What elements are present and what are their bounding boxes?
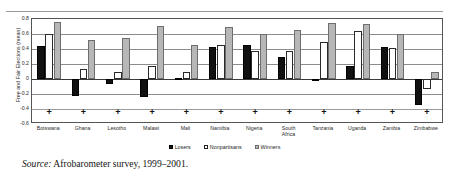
bar-winners xyxy=(397,34,404,79)
bar-nonpartisans xyxy=(286,51,293,80)
bar-losers xyxy=(278,57,285,79)
significance-plus-marker: + xyxy=(218,108,223,117)
bar-nonpartisans xyxy=(183,72,190,79)
bar-losers xyxy=(381,47,388,79)
bar-winners xyxy=(157,26,164,79)
y-tick-label: 0.4 xyxy=(22,45,29,51)
significance-plus-marker: + xyxy=(424,108,429,117)
source-caption: Source: Afrobarometer survey, 1999–2001. xyxy=(22,158,188,169)
bar-nonpartisans xyxy=(389,48,396,79)
bar-winners xyxy=(88,40,95,79)
bar-winners xyxy=(260,34,267,79)
bar-winners xyxy=(54,22,61,79)
x-tick-label: Namibia xyxy=(203,125,237,131)
legend-item-losers: Losers xyxy=(169,144,191,150)
x-tick-label: Botswana xyxy=(31,125,65,131)
legend-label: Losers xyxy=(175,144,191,150)
chart-legend: LosersNonpartisansWinners xyxy=(0,144,449,150)
source-label: Source: xyxy=(22,158,51,169)
y-tick-label: 0.2 xyxy=(22,60,29,66)
significance-marker-row: ++++++++++++ xyxy=(32,103,442,122)
plot-area: ++++++++++++ xyxy=(31,18,443,123)
legend-label: Nonpartisans xyxy=(210,144,242,150)
bar-nonpartisans xyxy=(114,72,121,80)
x-tick-label: South Africa xyxy=(271,125,305,137)
bar-nonpartisans xyxy=(320,42,327,79)
top-divider-rule xyxy=(6,11,443,12)
x-tick-label: Tanzania xyxy=(306,125,340,131)
y-tick-label: 0 xyxy=(26,75,29,81)
bar-winners xyxy=(191,45,198,79)
significance-plus-marker: + xyxy=(253,108,258,117)
y-tick-label: 0.6 xyxy=(22,30,29,36)
significance-plus-marker: + xyxy=(81,108,86,117)
bar-nonpartisans xyxy=(148,66,155,80)
bar-losers xyxy=(140,79,147,97)
significance-plus-marker: + xyxy=(184,108,189,117)
y-tick-label: 0.8 xyxy=(22,15,29,21)
bar-losers xyxy=(243,45,250,79)
significance-plus-marker: + xyxy=(287,108,292,117)
x-tick-label: Ghana xyxy=(65,125,99,131)
legend-item-nonpartisans: Nonpartisans xyxy=(204,144,242,150)
bar-nonpartisans xyxy=(354,31,361,79)
x-tick-label: Mali xyxy=(168,125,202,131)
x-tick-label: Uganda xyxy=(340,125,374,131)
bar-losers xyxy=(209,47,216,79)
bar-winners xyxy=(363,24,370,79)
legend-swatch-icon xyxy=(255,145,260,150)
x-axis-category-labels: BotswanaGhanaLesothoMalawiMaliNamibiaNig… xyxy=(31,125,443,141)
bar-losers xyxy=(312,79,319,81)
significance-plus-marker: + xyxy=(321,108,326,117)
significance-plus-marker: + xyxy=(356,108,361,117)
bar-nonpartisans xyxy=(45,34,52,79)
bar-losers xyxy=(175,78,182,80)
bar-losers xyxy=(37,46,44,79)
legend-item-winners: Winners xyxy=(255,144,281,150)
bar-winners xyxy=(122,38,129,79)
y-tick-label: -0.4 xyxy=(20,105,29,111)
significance-plus-marker: + xyxy=(150,108,155,117)
x-tick-label: Zimbabwe xyxy=(409,125,443,131)
bar-losers xyxy=(106,79,113,84)
bar-winners xyxy=(225,27,232,80)
bar-losers xyxy=(346,66,353,80)
y-tick-label: -0.6 xyxy=(20,120,29,126)
bar-nonpartisans xyxy=(251,51,258,80)
bar-losers xyxy=(72,79,79,96)
source-text: Afrobarometer survey, 1999–2001. xyxy=(53,158,188,169)
bar-nonpartisans xyxy=(80,69,87,79)
bar-nonpartisans xyxy=(423,79,430,89)
y-tick-label: -0.2 xyxy=(20,90,29,96)
x-tick-label: Zambia xyxy=(374,125,408,131)
bar-winners xyxy=(328,23,335,79)
bar-nonpartisans xyxy=(217,45,224,79)
legend-label: Winners xyxy=(261,144,281,150)
bar-winners xyxy=(431,72,438,79)
legend-swatch-icon xyxy=(169,145,174,150)
figure-container: Free and Fair Elections (mean) 0.80.60.4… xyxy=(0,0,449,174)
significance-plus-marker: + xyxy=(115,108,120,117)
x-tick-label: Nigeria xyxy=(237,125,271,131)
bar-losers xyxy=(415,79,422,105)
y-axis-tick-labels: 0.80.60.40.20-0.2-0.4-0.6 xyxy=(13,18,29,123)
x-tick-label: Malawi xyxy=(134,125,168,131)
legend-swatch-icon xyxy=(204,145,209,150)
significance-plus-marker: + xyxy=(47,108,52,117)
significance-plus-marker: + xyxy=(390,108,395,117)
x-tick-label: Lesotho xyxy=(100,125,134,131)
bar-winners xyxy=(294,30,301,80)
